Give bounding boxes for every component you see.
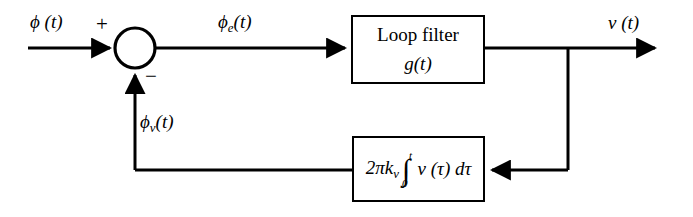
feedback-signal-tail: (t) (156, 111, 174, 132)
vco-gain-base: 2πk (366, 157, 393, 178)
input-signal-label: ϕ (t) (30, 12, 63, 31)
error-signal-tail: (t) (234, 11, 252, 32)
vco-integrator-block: 2πkv ∫ t 0 v (τ) dτ (352, 136, 485, 202)
plus-sign-label: + (96, 14, 108, 35)
pll-block-diagram: ϕ (t) ϕe(t) v (t) ϕv(t) + − Loop filter … (0, 0, 693, 217)
loop-filter-transfer-function: g(t) (404, 53, 431, 75)
vco-gain-label: 2πkv (366, 157, 399, 182)
integral-limits: t 0 (406, 152, 412, 186)
feedback-signal-label: ϕv(t) (140, 112, 174, 135)
integral-lower-limit: 0 (402, 177, 408, 189)
integrand-label: v (τ) dτ (418, 158, 472, 180)
output-signal-label: v (t) (608, 13, 639, 32)
integral-expression: ∫ t 0 v (τ) dτ (402, 152, 471, 186)
summing-junction-circle (115, 28, 155, 68)
minus-sign-label: − (145, 66, 157, 87)
feedback-signal-base: ϕ (140, 111, 150, 132)
integral-upper-limit: t (409, 149, 415, 161)
loop-filter-title: Loop filter (377, 24, 459, 46)
loop-filter-block: Loop filter g(t) (351, 15, 485, 84)
error-signal-label: ϕe(t) (218, 12, 252, 35)
error-signal-base: ϕ (218, 11, 228, 32)
vco-gain-subscript: v (393, 165, 399, 180)
